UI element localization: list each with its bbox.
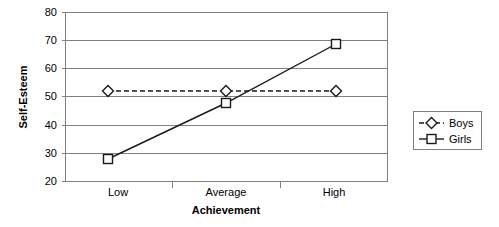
series-boys-point-average [221,86,232,97]
ytick-label-40: 40 [45,119,57,131]
x-axis-category-labels: Low Average High [108,186,345,198]
series-girls-point-average [222,99,231,108]
ytick-label-50: 50 [45,90,57,102]
xtick-label-low: Low [108,186,128,198]
series-boys [103,86,342,97]
ytick-label-60: 60 [45,62,57,74]
xtick-label-average: Average [206,186,247,198]
ytick-label-70: 70 [45,34,57,46]
legend-label-girls: Girls [449,133,472,145]
series-boys-point-low [103,86,114,97]
ytick-label-20: 20 [45,175,57,187]
y-axis-title: Self-Esteem [17,65,29,128]
series-girls-point-low [104,155,113,164]
series-girls [104,40,341,164]
legend: Boys Girls [414,112,482,150]
ytick-label-80: 80 [45,6,57,18]
legend-swatch-girls-marker [427,135,436,144]
xtick-label-high: High [323,186,346,198]
y-axis-tick-labels: 80 70 60 50 40 30 20 [45,6,57,187]
ytick-label-30: 30 [45,147,57,159]
legend-label-boys: Boys [449,117,474,129]
x-axis-title: Achievement [192,204,261,216]
chart-container: 80 70 60 50 40 30 20 Low Average High Ac… [0,0,499,227]
series-girls-point-high [332,40,341,49]
series-boys-point-high [331,86,342,97]
y-axis-ticks [62,13,66,182]
line-chart: 80 70 60 50 40 30 20 Low Average High Ac… [0,0,499,227]
